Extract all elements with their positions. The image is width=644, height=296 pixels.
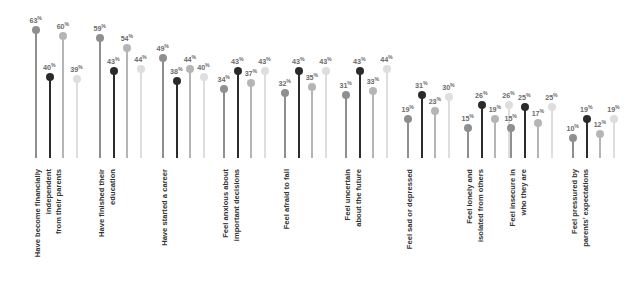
data-value-label: 44% (184, 55, 196, 64)
data-value-number: 40 (197, 63, 205, 72)
percent-sign: % (436, 96, 441, 102)
data-value-number: 43 (107, 57, 115, 66)
lollipop-stem (284, 93, 286, 158)
data-value-label: 49% (157, 44, 169, 53)
lollipop-plot-area: 63%40%60%39%59%43%54%44%49%38%44%40%34%4… (0, 0, 644, 296)
data-value-label: 23% (429, 97, 441, 106)
lollipop-dot (445, 93, 453, 101)
percent-sign: % (51, 62, 56, 68)
lollipop-stem (76, 79, 78, 158)
lollipop-stem (62, 36, 64, 158)
percent-sign: % (388, 54, 393, 60)
lollipop-stem (264, 71, 266, 158)
percent-sign: % (115, 56, 120, 62)
data-value-number: 43 (258, 57, 266, 66)
lollipop-stem (140, 69, 142, 158)
percent-sign: % (539, 108, 544, 114)
lollipop-dot (173, 77, 181, 85)
data-value-label: 12% (594, 120, 606, 129)
lollipop-dot (478, 101, 486, 109)
percent-sign: % (347, 80, 352, 86)
data-value-label: 54% (121, 34, 133, 43)
data-value-number: 26 (502, 92, 510, 101)
data-value-label: 40% (43, 63, 55, 72)
percent-sign: % (483, 90, 488, 96)
lollipop-dot (569, 134, 577, 142)
data-value-number: 25 (518, 94, 526, 103)
data-value-label: 40% (197, 63, 209, 72)
percent-sign: % (601, 119, 606, 125)
lollipop-stem (49, 77, 51, 158)
data-value-label: 17% (532, 109, 544, 118)
lollipop-stem (126, 48, 128, 158)
lollipop-dot (46, 73, 54, 81)
data-value-label: 30% (442, 83, 454, 92)
data-value-number: 31 (415, 81, 423, 90)
data-value-number: 43 (319, 57, 327, 66)
percent-sign: % (239, 56, 244, 62)
lollipop-stem (113, 71, 115, 158)
lollipop-dot (464, 124, 472, 132)
lollipop-dot (507, 124, 515, 132)
percent-sign: % (101, 23, 106, 29)
data-value-label: 43% (319, 57, 331, 66)
data-value-label: 15% (505, 114, 517, 123)
lollipop-dot (322, 67, 330, 75)
category-label: Feel insecure in who they are (508, 169, 529, 289)
data-value-label: 26% (475, 91, 487, 100)
lollipop-stem (99, 38, 101, 158)
lollipop-stem (237, 71, 239, 158)
data-value-number: 38 (170, 67, 178, 76)
data-value-label: 43% (258, 57, 270, 66)
data-value-label: 31% (340, 81, 352, 90)
lollipop-dot (234, 67, 242, 75)
percent-sign: % (423, 80, 428, 86)
lollipop-stem (551, 107, 553, 158)
lollipop-stem (250, 83, 252, 158)
percent-sign: % (164, 43, 169, 49)
category-label: Feel lonely and isolated from others (465, 169, 486, 289)
percent-sign: % (588, 104, 593, 110)
lollipop-dot (186, 65, 194, 73)
lollipop-dot (418, 91, 426, 99)
data-value-label: 26% (502, 91, 514, 100)
lollipop-stem (162, 58, 164, 158)
lollipop-stem (189, 69, 191, 158)
data-value-label: 10% (567, 124, 579, 133)
lollipop-dot (281, 89, 289, 97)
lollipop-stem (510, 128, 512, 158)
percent-sign: % (409, 104, 414, 110)
data-value-label: 19% (489, 105, 501, 114)
lollipop-dot (431, 107, 439, 115)
lollipop-stem (311, 87, 313, 158)
lollipop-dot (491, 115, 499, 123)
percent-sign: % (553, 92, 558, 98)
percent-sign: % (266, 56, 271, 62)
percent-sign: % (286, 78, 291, 84)
lollipop-dot (96, 34, 104, 42)
lollipop-stem (407, 119, 409, 158)
lollipop-stem (203, 77, 205, 158)
data-value-label: 35% (306, 73, 318, 82)
percent-sign: % (615, 104, 620, 110)
lollipop-dot (356, 67, 364, 75)
lollipop-dot (548, 103, 556, 111)
percent-sign: % (374, 76, 379, 82)
percent-sign: % (252, 68, 257, 74)
percent-sign: % (205, 62, 210, 68)
percent-sign: % (178, 66, 183, 72)
percent-sign: % (128, 33, 133, 39)
data-value-label: 32% (279, 79, 291, 88)
data-value-number: 40 (43, 63, 51, 72)
lollipop-dot (73, 75, 81, 83)
lollipop-dot (383, 65, 391, 73)
lollipop-dot (342, 91, 350, 99)
percent-sign: % (574, 123, 579, 129)
category-label: Have finished their education (97, 169, 118, 289)
lollipop-dot (110, 67, 118, 75)
data-value-label: 63% (30, 16, 42, 25)
lollipop-dot (505, 101, 513, 109)
lollipop-stem (467, 128, 469, 158)
lollipop-stem (298, 71, 300, 158)
lollipop-dot (247, 79, 255, 87)
